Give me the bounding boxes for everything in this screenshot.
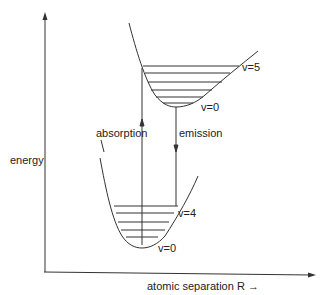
upper-top-level-label: v=5 xyxy=(242,62,260,73)
x-axis-label: atomic separation R → xyxy=(147,281,259,292)
x-axis xyxy=(44,272,312,275)
potential-energy-diagram: energy atomic separation R → v=5 v=0 v=4… xyxy=(0,0,324,295)
upper-vibrational-levels xyxy=(143,66,239,103)
lower-potential-curve xyxy=(100,158,198,248)
lower-top-level-label: v=4 xyxy=(178,208,196,219)
emission-label: emission xyxy=(179,128,222,139)
lower-ground-level-label: v=0 xyxy=(158,243,176,254)
upper-ground-level-label: v=0 xyxy=(201,102,219,113)
y-axis-label: energy xyxy=(10,155,44,166)
absorption-label: absorption xyxy=(96,128,147,139)
absorption-arrowhead xyxy=(140,119,144,126)
upper-potential-curve xyxy=(129,23,258,107)
lower-vibrational-levels xyxy=(114,206,178,237)
emission-arrowhead xyxy=(174,145,178,152)
